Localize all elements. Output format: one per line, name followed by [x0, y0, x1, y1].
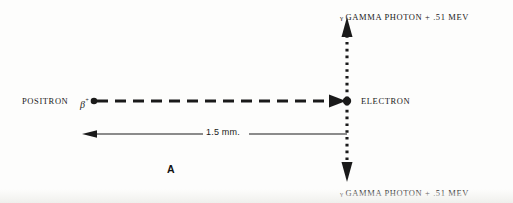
positron-symbol: β+: [80, 94, 89, 112]
gamma-bottom-text: GAMMA PHOTON + .51 MEV: [346, 188, 469, 198]
electron-label: ELECTRON: [361, 96, 410, 106]
beta-superscript: +: [85, 97, 89, 103]
positron-dot: [91, 98, 98, 105]
gamma-glyph-top: γ: [340, 14, 343, 22]
positron-track: [91, 95, 346, 108]
electron-dot: [343, 97, 351, 105]
gamma-down-arrowhead-icon: [342, 162, 353, 182]
gamma-top-label: γGAMMA PHOTON + .51 MEV: [340, 6, 469, 24]
panel-letter-label: A: [167, 163, 175, 175]
distance-label: 1.5 mm.: [206, 127, 240, 137]
annihilation-diagram: POSITRON β+ ELECTRON γGAMMA PHOTON + .51…: [0, 0, 513, 203]
diagram-canvas: [0, 0, 513, 203]
positron-label: POSITRON: [22, 96, 68, 106]
gamma-glyph-bottom: γ: [340, 190, 343, 198]
dimension-arrowhead-left-icon: [82, 130, 97, 138]
gamma-top-text: GAMMA PHOTON + .51 MEV: [346, 12, 469, 22]
gamma-bottom-label: γGAMMA PHOTON + .51 MEV: [340, 182, 469, 200]
